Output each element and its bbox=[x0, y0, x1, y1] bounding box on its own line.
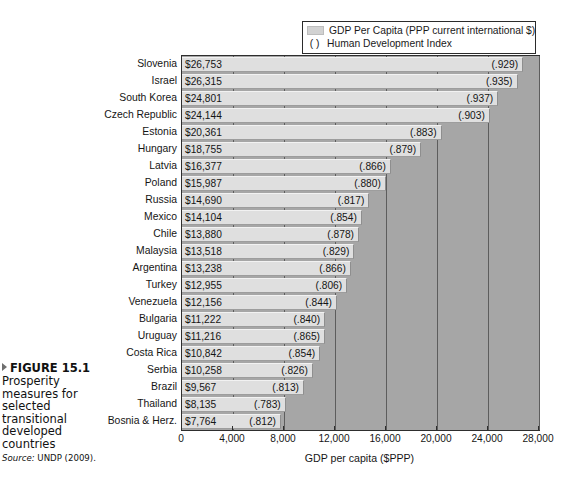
bar-value-label: $12,955 bbox=[185, 280, 222, 291]
bar[interactable]: $15,987(.880) bbox=[182, 176, 386, 191]
bar[interactable]: $13,518(.829) bbox=[182, 244, 354, 259]
category-label: Bulgaria bbox=[60, 310, 177, 327]
bar-row[interactable]: $13,880(.878) bbox=[182, 226, 359, 243]
bar-row[interactable]: $13,238(.866) bbox=[182, 260, 351, 277]
bar[interactable]: $10,258(.826) bbox=[182, 363, 313, 378]
bar[interactable]: $13,238(.866) bbox=[182, 261, 351, 276]
chart-legend: GDP Per Capita (PPP current internationa… bbox=[302, 21, 536, 54]
bar-hdi-label: (.929) bbox=[491, 59, 518, 70]
chart-plot-area: $26,753(.929)$26,315(.935)$24,801(.937)$… bbox=[181, 55, 540, 431]
bar[interactable]: $12,156(.844) bbox=[182, 295, 337, 310]
bar[interactable]: $14,690(.817) bbox=[182, 193, 369, 208]
bar[interactable]: $12,955(.806) bbox=[182, 278, 347, 293]
x-axis-tick-label: 0 bbox=[178, 433, 184, 444]
bar-hdi-label: (.813) bbox=[272, 382, 299, 393]
bar-value-label: $24,144 bbox=[185, 110, 222, 121]
legend-label-hdi: Human Development Index bbox=[327, 37, 452, 50]
bar[interactable]: $8,135(.783) bbox=[182, 397, 286, 412]
bar[interactable]: $9,567(.813) bbox=[182, 380, 304, 395]
bar-row[interactable]: $12,156(.844) bbox=[182, 294, 337, 311]
category-label: Chile bbox=[60, 225, 177, 242]
bar-value-label: $13,880 bbox=[185, 229, 222, 240]
category-label: Costa Rica bbox=[60, 344, 177, 361]
bar-row[interactable]: $14,104(.854) bbox=[182, 209, 362, 226]
x-axis-tick bbox=[334, 426, 335, 430]
bar-row[interactable]: $20,361(.883) bbox=[182, 124, 442, 141]
bar-hdi-label: (.865) bbox=[293, 331, 320, 342]
bar-value-label: $7,764 bbox=[185, 416, 216, 427]
x-axis-tick-label: 20,000 bbox=[420, 433, 451, 444]
x-axis-tick-label: 4,000 bbox=[219, 433, 245, 444]
bar-hdi-label: (.829) bbox=[323, 246, 350, 257]
bar-row[interactable]: $10,258(.826) bbox=[182, 362, 313, 379]
bar-row[interactable]: $11,222(.840) bbox=[182, 311, 325, 328]
bar-value-label: $10,258 bbox=[185, 365, 222, 376]
bar[interactable]: $24,801(.937) bbox=[182, 91, 498, 106]
x-axis-tick-label: 28,000 bbox=[522, 433, 553, 444]
bar-value-label: $26,315 bbox=[185, 76, 222, 87]
bar[interactable]: $13,880(.878) bbox=[182, 227, 359, 242]
bar-row[interactable]: $24,144(.903) bbox=[182, 107, 490, 124]
x-axis: 04,0008,00012,00016,00020,00024,00028,00… bbox=[181, 430, 538, 431]
triangle-right-icon bbox=[2, 363, 7, 371]
bar-hdi-label: (.866) bbox=[319, 263, 346, 274]
bar-value-label: $18,755 bbox=[185, 144, 222, 155]
bar-hdi-label: (.878) bbox=[327, 229, 354, 240]
bar-hdi-label: (.903) bbox=[458, 110, 485, 121]
category-label: Mexico bbox=[60, 208, 177, 225]
x-axis-tick bbox=[487, 426, 488, 430]
bar-value-label: $14,690 bbox=[185, 195, 222, 206]
category-label: Poland bbox=[60, 174, 177, 191]
bar-hdi-label: (.854) bbox=[330, 212, 357, 223]
category-label: Slovenia bbox=[60, 55, 177, 72]
legend-label-gdp: GDP Per Capita (PPP current internationa… bbox=[329, 24, 535, 37]
bar[interactable]: $24,144(.903) bbox=[182, 108, 490, 123]
bar-hdi-label: (.844) bbox=[305, 297, 332, 308]
bar-row[interactable]: $26,753(.929) bbox=[182, 56, 523, 73]
bar-row[interactable]: $9,567(.813) bbox=[182, 379, 304, 396]
bar-hdi-label: (.866) bbox=[359, 161, 386, 172]
bar-row[interactable]: $13,518(.829) bbox=[182, 243, 354, 260]
bar-row[interactable]: $16,377(.866) bbox=[182, 158, 391, 175]
bar[interactable]: $14,104(.854) bbox=[182, 210, 362, 225]
category-label: Turkey bbox=[60, 276, 177, 293]
bar-hdi-label: (.817) bbox=[338, 195, 365, 206]
bar[interactable]: $18,755(.879) bbox=[182, 142, 421, 157]
bar-hdi-label: (.812) bbox=[249, 416, 276, 427]
bar-value-label: $26,753 bbox=[185, 59, 222, 70]
bar-row[interactable]: $24,801(.937) bbox=[182, 90, 498, 107]
bar-row[interactable]: $15,987(.880) bbox=[182, 175, 386, 192]
category-label: Brazil bbox=[60, 378, 177, 395]
bar[interactable]: $11,216(.865) bbox=[182, 329, 325, 344]
bar-row[interactable]: $11,216(.865) bbox=[182, 328, 325, 345]
bar-row[interactable]: $8,135(.783) bbox=[182, 396, 286, 413]
category-label: Serbia bbox=[60, 361, 177, 378]
bar[interactable]: $26,315(.935) bbox=[182, 74, 518, 89]
bar-row[interactable]: $10,842(.854) bbox=[182, 345, 320, 362]
bar-hdi-label: (.840) bbox=[293, 314, 320, 325]
bar-row[interactable]: $12,955(.806) bbox=[182, 277, 347, 294]
bar[interactable]: $11,222(.840) bbox=[182, 312, 325, 327]
bar[interactable]: $26,753(.929) bbox=[182, 57, 523, 72]
category-label: Czech Republic bbox=[60, 106, 177, 123]
category-axis-labels: SloveniaIsraelSouth KoreaCzech RepublicE… bbox=[60, 55, 177, 429]
legend-item-gdp: GDP Per Capita (PPP current internationa… bbox=[307, 24, 531, 37]
bar[interactable]: $20,361(.883) bbox=[182, 125, 442, 140]
bar-value-label: $8,135 bbox=[185, 399, 216, 410]
bar[interactable]: $10,842(.854) bbox=[182, 346, 320, 361]
x-axis-tick bbox=[283, 426, 284, 430]
category-label: Israel bbox=[60, 72, 177, 89]
bar-value-label: $13,238 bbox=[185, 263, 222, 274]
bar-row[interactable]: $14,690(.817) bbox=[182, 192, 369, 209]
category-label: South Korea bbox=[60, 89, 177, 106]
bar-value-label: $9,567 bbox=[185, 382, 216, 393]
category-label: Bosnia & Herz. bbox=[60, 412, 177, 429]
x-axis-tick bbox=[538, 426, 539, 430]
x-axis-tick-label: 8,000 bbox=[270, 433, 296, 444]
x-axis-title: GDP per capita ($PPP) bbox=[181, 452, 538, 464]
bar-row[interactable]: $26,315(.935) bbox=[182, 73, 518, 90]
bar[interactable]: $16,377(.866) bbox=[182, 159, 391, 174]
figure-source-prefix: Source: bbox=[2, 453, 35, 463]
bar-value-label: $11,216 bbox=[185, 331, 221, 342]
bar-row[interactable]: $18,755(.879) bbox=[182, 141, 421, 158]
